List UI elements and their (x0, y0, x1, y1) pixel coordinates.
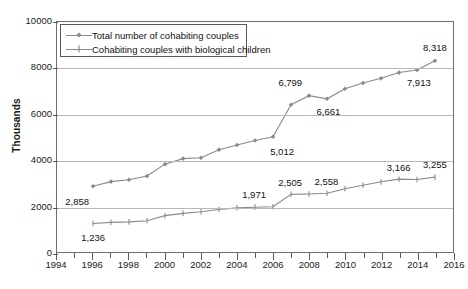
x-tick-label: 1998 (108, 259, 148, 270)
data-point-marker (397, 70, 402, 75)
gridline (57, 115, 453, 116)
data-point-marker (199, 155, 204, 160)
x-axis-tick-labels: 1994199619982000200220042006200820102012… (0, 259, 468, 275)
data-point-marker (433, 58, 438, 63)
x-tick-mark (146, 253, 147, 258)
x-tick-mark (183, 253, 184, 258)
x-tick-mark (327, 253, 328, 258)
y-tick-label: 2000 (12, 202, 52, 212)
x-tick-mark (74, 253, 75, 258)
y-tick-mark (53, 161, 58, 162)
data-point-marker (325, 97, 330, 102)
y-axis-tick-labels: 1000080006000400020000 (8, 0, 52, 289)
data-point-label: 2,558 (311, 177, 341, 187)
data-point-marker (109, 179, 114, 184)
data-point-label: 5,012 (267, 147, 297, 157)
y-tick-label: 6000 (12, 109, 52, 119)
x-tick-label: 2000 (145, 259, 185, 270)
x-tick-mark (400, 253, 401, 258)
data-point-marker (217, 147, 222, 152)
y-tick-mark (53, 208, 58, 209)
data-point-marker (235, 143, 240, 148)
legend-label-total: Total number of cohabiting couples (92, 30, 239, 41)
data-point-marker (91, 184, 96, 189)
diamond-marker-icon (66, 29, 92, 41)
plus-marker-icon (66, 43, 92, 55)
y-tick-label: 10000 (12, 16, 52, 26)
data-point-marker (289, 103, 294, 108)
series-line (93, 177, 435, 223)
y-tick-label: 8000 (12, 62, 52, 72)
data-point-marker (127, 177, 132, 182)
data-point-marker (361, 81, 366, 86)
data-point-label: 6,661 (313, 107, 343, 117)
data-point-label: 6,799 (275, 78, 305, 88)
data-point-label: 8,318 (420, 43, 450, 53)
legend-item-total: Total number of cohabiting couples (66, 28, 241, 42)
data-point-label: 1,236 (78, 233, 108, 243)
x-tick-label: 1996 (72, 259, 112, 270)
data-point-marker (379, 76, 384, 81)
data-point-label: 7,913 (404, 78, 434, 88)
chart-legend: Total number of cohabiting couples Cohab… (60, 24, 247, 57)
x-tick-label: 2010 (325, 259, 365, 270)
data-point-label: 2,858 (62, 197, 92, 207)
x-tick-label: 2012 (362, 259, 402, 270)
data-point-label: 2,505 (275, 178, 305, 188)
y-tick-mark (53, 68, 58, 69)
data-point-label: 3,255 (420, 160, 450, 170)
gridline (57, 208, 453, 209)
x-tick-label: 2004 (217, 259, 257, 270)
chart-title (70, 0, 400, 5)
x-tick-label: 2014 (398, 259, 438, 270)
x-tick-mark (291, 253, 292, 258)
legend-item-biological: Cohabiting couples with biological child… (66, 42, 241, 56)
y-tick-label: 4000 (12, 155, 52, 165)
y-tick-mark (53, 22, 58, 23)
gridline (57, 68, 453, 69)
chart-container: Thousands 1000080006000400020000 1994199… (0, 0, 468, 289)
x-tick-label: 2016 (434, 259, 468, 270)
data-point-marker (271, 134, 276, 139)
x-tick-label: 1994 (36, 259, 76, 270)
data-point-marker (307, 93, 312, 98)
data-point-marker (253, 138, 258, 143)
x-tick-mark (255, 253, 256, 258)
x-tick-mark (364, 253, 365, 258)
x-tick-label: 2008 (289, 259, 329, 270)
y-tick-mark (53, 115, 58, 116)
x-tick-label: 2006 (253, 259, 293, 270)
x-tick-mark (110, 253, 111, 258)
data-point-label: 1,971 (239, 190, 269, 200)
data-point-marker (343, 86, 348, 91)
y-tick-label: 0 (12, 248, 52, 258)
x-tick-label: 2002 (181, 259, 221, 270)
x-tick-mark (219, 253, 220, 258)
x-tick-mark (436, 253, 437, 258)
legend-label-biological: Cohabiting couples with biological child… (92, 44, 271, 55)
data-point-label: 3,166 (384, 163, 414, 173)
